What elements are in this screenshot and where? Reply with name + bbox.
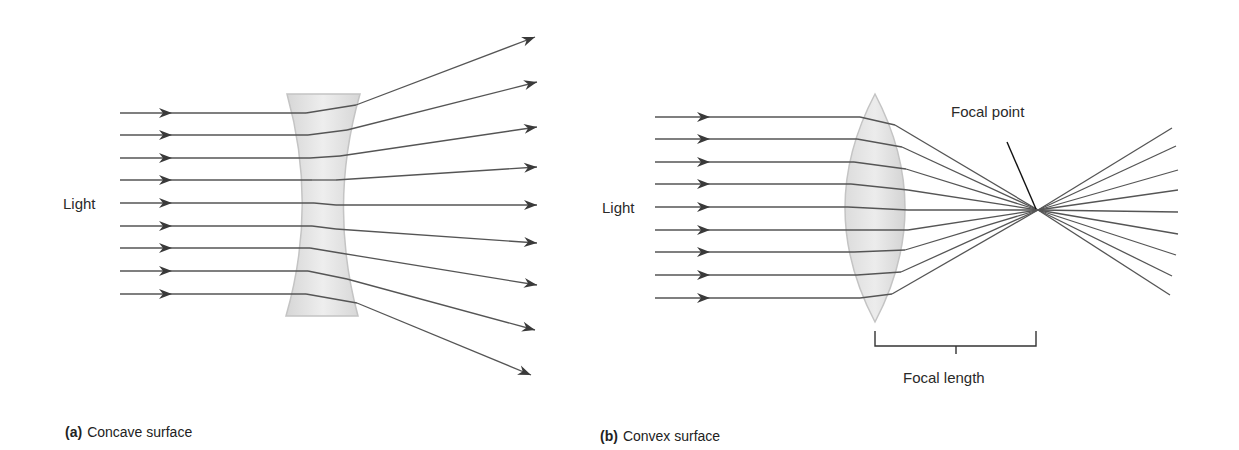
outgoing-ray [336, 229, 537, 243]
panel-b-caption: (b)Convex surface [600, 429, 720, 443]
arrowhead-icon [523, 77, 538, 90]
diverging-ray [1038, 210, 1178, 234]
panel-a-caption-text: Concave surface [87, 424, 192, 440]
focal-point-leader-line [1007, 142, 1036, 209]
arrowhead-icon [523, 122, 537, 134]
focal-length-label: Focal length [903, 370, 985, 385]
converging-ray [892, 210, 1038, 294]
panel-b-caption-text: Convex surface [623, 428, 720, 444]
diverging-ray [1038, 210, 1170, 295]
convex-light-rays [655, 112, 1178, 303]
outgoing-ray [356, 37, 535, 105]
panel-b-caption-letter: (b) [600, 428, 618, 444]
diverging-ray [1038, 170, 1178, 210]
converging-ray [901, 210, 1038, 272]
diverging-ray [1038, 210, 1172, 276]
outgoing-ray [357, 303, 531, 375]
outgoing-ray [340, 253, 537, 285]
panel-a-concave [120, 32, 538, 379]
converging-ray [908, 210, 1038, 230]
converging-ray [908, 190, 1038, 210]
diverging-ray [1038, 210, 1178, 212]
arrowhead-icon [523, 278, 537, 290]
arrowhead-icon [517, 365, 533, 379]
converging-ray [906, 169, 1038, 210]
focal-length-bracket [875, 331, 1036, 354]
converging-ray [895, 125, 1038, 210]
diverging-ray [1038, 210, 1176, 255]
panel-b-convex [655, 94, 1178, 354]
outgoing-ray [347, 279, 535, 330]
arrowhead-icon [521, 322, 536, 335]
outgoing-ray [347, 82, 537, 130]
panel-a-caption: (a)Concave surface [65, 425, 192, 439]
panel-a-light-label: Light [63, 196, 96, 211]
panel-a-caption-letter: (a) [65, 424, 82, 440]
converging-ray [905, 210, 1038, 250]
outgoing-ray [340, 127, 537, 156]
focal-point-label: Focal point [951, 104, 1024, 119]
arrowhead-icon [521, 32, 537, 46]
outgoing-ray [336, 167, 537, 180]
diverging-ray [1038, 128, 1172, 210]
lens-diagram [0, 0, 1239, 450]
converging-ray [902, 147, 1038, 210]
panel-b-light-label: Light [602, 200, 635, 215]
